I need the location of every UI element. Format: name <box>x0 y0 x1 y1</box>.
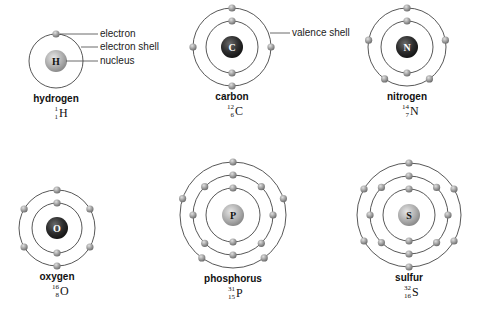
atom-sulfur: SsulfurS3216 <box>357 159 461 300</box>
atom-hydrogen: HhydrogenH11 <box>29 30 83 121</box>
mass-number: 16 <box>52 283 60 291</box>
isotope-symbol: H <box>59 106 68 120</box>
atomic-number: 15 <box>228 293 236 301</box>
isotope-symbol: P <box>236 286 243 300</box>
atomic-number: 8 <box>56 291 60 299</box>
mass-number: 1 <box>55 105 59 113</box>
electron-icon <box>229 251 236 258</box>
electron-icon <box>21 205 28 212</box>
mass-number: 12 <box>227 103 235 111</box>
callouts-carbon: valence shell <box>270 27 350 38</box>
isotope-symbol: N <box>410 104 419 118</box>
electron-icon <box>366 211 373 218</box>
electron-icon <box>258 183 265 190</box>
atomic-number: 6 <box>231 111 235 119</box>
atom-nitrogen: NnitrogenN147 <box>365 4 449 119</box>
electron-icon <box>405 159 412 166</box>
electron-icon <box>360 185 367 192</box>
callouts-hydrogen: electron electron shell nucleus <box>60 28 159 66</box>
electron-icon <box>228 69 235 76</box>
electron-icon <box>267 43 274 50</box>
electron-icon <box>21 243 28 250</box>
mass-number: 32 <box>404 284 412 292</box>
atom-carbon: CcarbonC126 <box>189 4 274 119</box>
atom-phosphorus: PphosphorusP3115 <box>179 158 287 301</box>
electron-icon <box>426 75 433 82</box>
electron-icon <box>198 254 205 261</box>
atomic-number: 7 <box>406 111 410 119</box>
electron-icon <box>86 243 93 250</box>
electron-icon <box>450 237 457 244</box>
electron-icon <box>405 185 412 192</box>
electron-icon <box>229 171 236 178</box>
element-name: phosphorus <box>204 273 262 284</box>
electron-icon <box>378 239 385 246</box>
atomic-number: 16 <box>404 292 412 300</box>
electron-icon <box>201 240 208 247</box>
mass-number: 31 <box>228 285 236 293</box>
electron-icon <box>403 4 410 11</box>
electron-icon <box>280 195 287 202</box>
electron-icon <box>405 263 412 270</box>
electron-icon <box>53 262 60 269</box>
mass-number: 14 <box>402 103 410 111</box>
electron-icon <box>52 30 59 37</box>
electron-icon <box>365 37 372 44</box>
nucleus-symbol: H <box>52 56 60 67</box>
element-name: sulfur <box>395 272 423 283</box>
isotope-symbol: S <box>412 285 419 299</box>
electron-icon <box>179 195 186 202</box>
electron-icon <box>269 211 276 218</box>
electron-icon <box>405 250 412 257</box>
electron-icon <box>433 239 440 246</box>
nucleus-symbol: O <box>53 223 61 234</box>
electron-icon <box>444 211 451 218</box>
electron-icon <box>405 172 412 179</box>
isotope-symbol: O <box>60 284 69 298</box>
nucleus-symbol: N <box>403 42 411 53</box>
atom-oxygen: OoxygenO168 <box>19 186 95 299</box>
electron-icon <box>229 238 236 245</box>
isotope-symbol: C <box>235 104 243 118</box>
electron-icon <box>229 158 236 165</box>
electron-icon <box>53 186 60 193</box>
electron-icon <box>86 205 93 212</box>
nucleus-symbol: S <box>406 210 412 221</box>
electron-shell-callout-label: electron shell <box>100 41 159 52</box>
electron-icon <box>450 185 457 192</box>
nucleus-symbol: C <box>228 42 235 53</box>
electron-callout-label: electron <box>100 28 136 39</box>
atomic-number: 1 <box>55 113 59 121</box>
nucleus-callout-label: nucleus <box>100 55 134 66</box>
element-name: nitrogen <box>387 91 427 102</box>
electron-icon <box>228 82 235 89</box>
electron-icon <box>433 184 440 191</box>
electron-icon <box>189 211 196 218</box>
electron-icon <box>229 184 236 191</box>
electron-icon <box>378 184 385 191</box>
electron-icon <box>53 249 60 256</box>
electron-icon <box>189 43 196 50</box>
electron-icon <box>53 199 60 206</box>
electron-icon <box>201 183 208 190</box>
element-name: carbon <box>215 91 248 102</box>
electron-icon <box>403 69 410 76</box>
electron-icon <box>228 4 235 11</box>
element-name: hydrogen <box>33 93 79 104</box>
electron-icon <box>405 237 412 244</box>
electron-icon <box>381 75 388 82</box>
electron-icon <box>442 37 449 44</box>
electron-icon <box>403 17 410 24</box>
electron-icon <box>261 254 268 261</box>
valence-shell-callout-label: valence shell <box>292 27 350 38</box>
nucleus-symbol: P <box>230 210 236 221</box>
element-name: oxygen <box>39 271 74 282</box>
electron-icon <box>228 17 235 24</box>
electron-icon <box>258 240 265 247</box>
atom-diagrams: HhydrogenH11CcarbonC126NnitrogenN147Ooxy… <box>0 0 480 313</box>
electron-icon <box>360 237 367 244</box>
